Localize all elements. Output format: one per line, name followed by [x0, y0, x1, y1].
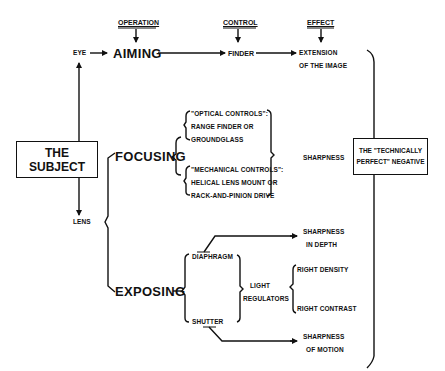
- extension-label-line1: EXTENSION: [299, 50, 337, 57]
- shutter-to-motion-arrow: [209, 327, 296, 341]
- effect-header: EFFECT: [307, 19, 334, 26]
- mechanical-controls-line3: RACK-AND-PINION DRIVE: [191, 193, 274, 200]
- mechanical-controls-line1: "MECHANICAL CONTROLS":: [191, 167, 283, 174]
- extension-label-line2: OF THE IMAGE: [299, 63, 347, 70]
- sharpness-in-depth-line1: SHARPNESS: [303, 229, 344, 236]
- right-collecting-bracket: [367, 50, 374, 368]
- technically-perfect-negative-box: THE "TECHNICALLY PERFECT" NEGATIVE: [353, 138, 428, 175]
- regulators-brace: [237, 255, 243, 322]
- subject-box: THE SUBJECT: [16, 141, 98, 178]
- optical-controls-line3: GROUNDGLASS: [191, 137, 243, 144]
- diaphragm-label: DIAPHRAGM: [192, 254, 233, 261]
- diaphragm-to-depth-arrow: [204, 236, 297, 252]
- density-contrast-brace: [290, 265, 296, 313]
- optical-controls-line1: "OPTICAL CONTROLS":: [191, 111, 268, 118]
- sharpness-of-motion-line1: SHARPNESS: [303, 334, 344, 341]
- sharpness-label: SHARPNESS: [303, 155, 344, 162]
- operation-header: OPERATION: [118, 19, 159, 26]
- lens-operations-brace: [105, 153, 115, 292]
- light-regulators-line1: LIGHT: [250, 283, 270, 290]
- right-density-label: RIGHT DENSITY: [297, 267, 349, 274]
- subject-label: THE SUBJECT: [17, 146, 97, 174]
- control-header: CONTROL: [223, 19, 258, 26]
- finder-label: FINDER: [228, 50, 254, 57]
- aiming-label: AIMING: [113, 47, 162, 60]
- eye-label: EYE: [73, 50, 86, 57]
- mechanical-controls-line2: HELICAL LENS MOUNT OR: [191, 180, 277, 187]
- optical-controls-line2: RANGE FINDER OR: [191, 124, 254, 131]
- photography-process-diagram: OPERATION CONTROL EFFECT EYE AIMING FIND…: [0, 0, 445, 371]
- negative-label-line2: PERFECT" NEGATIVE: [357, 157, 425, 167]
- sharpness-in-depth-line2: IN DEPTH: [306, 242, 337, 249]
- shutter-label: SHUTTER: [192, 319, 223, 326]
- lens-label: LENS: [73, 219, 91, 226]
- negative-label-line1: THE "TECHNICALLY: [359, 146, 422, 156]
- focusing-label: FOCUSING: [115, 150, 186, 163]
- light-regulators-line2: REGULATORS: [243, 296, 289, 303]
- right-contrast-label: RIGHT CONTRAST: [297, 306, 357, 313]
- exposing-label: EXPOSING: [115, 285, 185, 298]
- sharpness-of-motion-line2: OF MOTION: [306, 347, 344, 354]
